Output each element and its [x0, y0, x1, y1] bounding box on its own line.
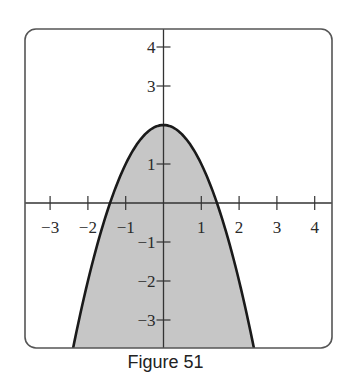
x-tick-label: 4 [310, 218, 319, 237]
y-tick-label: 4 [147, 38, 156, 57]
parabola-plot: −3−2−11234431−1−2−3 [0, 0, 351, 378]
x-tick-label: 1 [197, 218, 206, 237]
x-tick-label: −3 [41, 218, 59, 237]
y-tick-label: 1 [147, 155, 156, 174]
figure-caption: Figure 51 [0, 352, 331, 373]
x-tick-label: −2 [79, 218, 97, 237]
x-tick-label: −1 [117, 218, 135, 237]
x-tick-label: 2 [235, 218, 244, 237]
y-tick-label: −1 [137, 233, 155, 252]
y-tick-label: −3 [137, 311, 155, 330]
y-tick-label: −2 [137, 272, 155, 291]
x-tick-label: 3 [273, 218, 282, 237]
y-tick-label: 3 [147, 77, 156, 96]
